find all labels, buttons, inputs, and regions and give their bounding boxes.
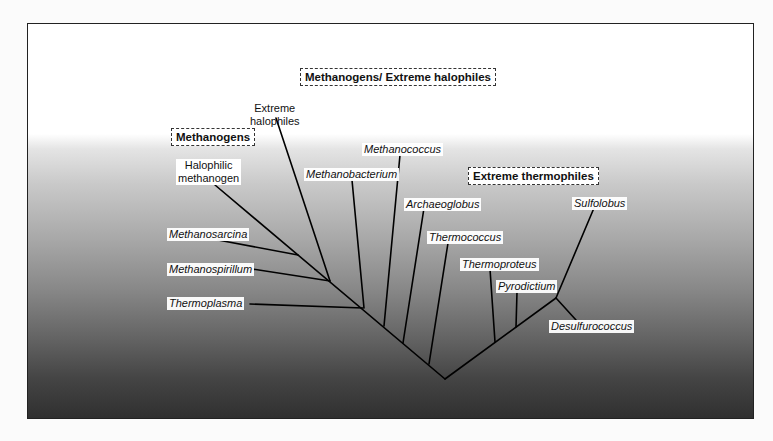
taxon-methanobacterium: Methanobacterium bbox=[304, 168, 399, 181]
group-label-methanogens-extreme-halophiles: Methanogens/ Extreme halophiles bbox=[300, 68, 496, 86]
branch-thermoplasma bbox=[250, 304, 363, 308]
taxon-sulfolobus: Sulfolobus bbox=[572, 197, 627, 210]
taxon-methanosarcina: Methanosarcina bbox=[167, 228, 249, 241]
branch-thermoproteus bbox=[490, 269, 495, 342]
branch-extreme-halophiles bbox=[276, 118, 330, 281]
taxon-archaeoglobus: Archaeoglobus bbox=[404, 198, 481, 211]
phylogenetic-tree bbox=[0, 0, 773, 441]
branch-sulfolobus bbox=[556, 208, 594, 298]
taxon-thermococcus: Thermococcus bbox=[427, 231, 503, 244]
branch-thermococcus bbox=[429, 243, 448, 364]
branch-pyrodictium bbox=[516, 292, 517, 327]
branch-archaeoglobus bbox=[403, 208, 424, 343]
branch-methanospirillum bbox=[252, 269, 330, 281]
group-label-extreme-thermophiles: Extreme thermophiles bbox=[468, 167, 599, 185]
taxon-thermoproteus: Thermoproteus bbox=[460, 258, 539, 271]
taxon-extreme-halophiles: Extreme halophiles bbox=[248, 102, 302, 128]
taxon-halophilic-methanogen: Halophilic methanogen bbox=[176, 159, 241, 185]
taxon-pyrodictium: Pyrodictium bbox=[496, 280, 557, 293]
taxon-methanococcus: Methanococcus bbox=[362, 143, 443, 156]
branch-right-arm bbox=[445, 298, 556, 379]
branch-desulfurococcus bbox=[556, 298, 576, 320]
branch-halophilic-methanogen bbox=[215, 185, 445, 379]
taxon-methanospirillum: Methanospirillum bbox=[167, 263, 254, 276]
branch-methanosarcina bbox=[218, 240, 298, 255]
taxon-desulfurococcus: Desulfurococcus bbox=[549, 320, 634, 333]
branch-methanobacterium bbox=[352, 180, 364, 308]
group-label-methanogens: Methanogens bbox=[171, 128, 255, 146]
taxon-thermoplasma: Thermoplasma bbox=[167, 297, 244, 310]
